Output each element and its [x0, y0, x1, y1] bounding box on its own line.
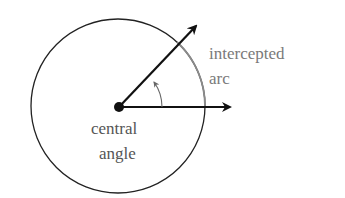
- intercepted-arc-label-line2: arc: [209, 70, 230, 87]
- central-angle-label-line1: central: [91, 120, 137, 137]
- center-point: [114, 102, 124, 112]
- intercepted-arc-label-line1: intercepted: [209, 45, 285, 62]
- central-angle-diagram: [0, 0, 345, 198]
- central-angle-label-line2: angle: [99, 145, 136, 162]
- intercepted-arc: [177, 42, 205, 106]
- angle-marker-arc: [154, 82, 162, 107]
- diagonal-ray: [119, 26, 196, 107]
